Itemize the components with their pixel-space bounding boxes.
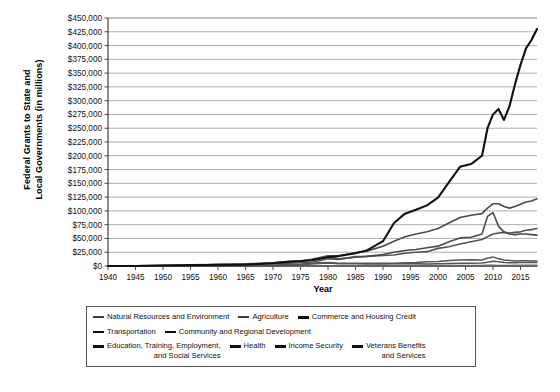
x-axis-tick-label: 2010: [484, 273, 503, 282]
y-axis-tick-label: $400,000: [68, 42, 103, 51]
legend-line-swatch-icon: [93, 345, 104, 348]
series-line: [108, 29, 537, 266]
legend-item-label: Transportation: [107, 327, 156, 337]
x-axis-tick-label: 1970: [264, 273, 283, 282]
y-axis-title: Federal Grants to State and Local Govern…: [22, 5, 45, 255]
legend-line-swatch-icon: [165, 331, 176, 334]
y-axis-tick-label: $350,000: [68, 69, 103, 78]
series-line: [108, 199, 537, 266]
legend-line-swatch-icon: [93, 316, 104, 318]
legend-item[interactable]: Education, Training, Employment,and Soci…: [93, 341, 221, 360]
y-axis-tick-label: $275,000: [68, 110, 103, 119]
legend-line-swatch-icon: [275, 345, 286, 348]
y-axis-tick-label: $200,000: [68, 152, 103, 161]
y-axis-tick-label: $50,000: [72, 234, 102, 243]
x-axis-tick-label: 1990: [374, 273, 393, 282]
y-axis-title-line2: Local Governments (in millions): [33, 5, 45, 255]
legend-row: Natural Resources and EnvironmentAgricul…: [93, 312, 469, 322]
y-axis-tick-label: $175,000: [68, 166, 103, 175]
legend-item-label: Education, Training, Employment,and Soci…: [107, 341, 221, 360]
x-axis-tick-label: 1955: [181, 273, 200, 282]
y-axis-tick-label: $100,000: [68, 207, 103, 216]
y-axis-tick-label: $125,000: [68, 193, 103, 202]
legend-item-label: Community and Regional Development: [179, 327, 311, 337]
legend-item-label: Natural Resources and Environment: [107, 312, 229, 322]
legend-line-swatch-icon: [93, 331, 104, 334]
y-axis-tick-label: $75,000: [72, 221, 102, 230]
legend-item-label-line2: and Social Services: [107, 351, 221, 361]
legend-item[interactable]: Agriculture: [238, 312, 288, 322]
y-axis-tick-label: $450,000: [68, 14, 103, 23]
legend-item[interactable]: Community and Regional Development: [165, 327, 311, 337]
y-axis-tick-label: $300,000: [68, 97, 103, 106]
legend-item-label: Health: [244, 341, 266, 351]
line-chart-svg: $0$25,000$50,000$75,000$100,000$125,000$…: [0, 0, 560, 300]
y-axis-tick-label: $150,000: [68, 179, 103, 188]
legend-row: TransportationCommunity and Regional Dev…: [93, 327, 469, 337]
x-axis-tick-label: 1985: [346, 273, 365, 282]
legend-row: Education, Training, Employment,and Soci…: [93, 341, 469, 360]
chart-figure: $0$25,000$50,000$75,000$100,000$125,000$…: [0, 0, 560, 392]
x-axis-tick-label: 1960: [209, 273, 228, 282]
legend-line-swatch-icon: [298, 316, 309, 319]
y-axis-tick-label: $225,000: [68, 138, 103, 147]
legend-item[interactable]: Health: [230, 341, 266, 351]
x-axis-tick-label: 2005: [456, 273, 475, 282]
y-axis-tick-label: $0: [93, 262, 103, 271]
legend-item-label: Income Security: [289, 341, 343, 351]
y-axis-title-line1: Federal Grants to State and: [22, 5, 34, 255]
x-axis-title: Year: [108, 284, 538, 294]
legend-item-label: Commerce and Housing Credit: [312, 312, 416, 322]
legend-item-label: Agriculture: [252, 312, 288, 322]
y-axis-tick-label: $425,000: [68, 28, 103, 37]
legend-item[interactable]: Natural Resources and Environment: [93, 312, 229, 322]
x-axis-tick-label: 1975: [291, 273, 310, 282]
legend-item-label-line2: and Services: [366, 351, 426, 361]
legend-item[interactable]: Veterans Benefitsand Services: [352, 341, 426, 360]
x-axis-tick-label: 2015: [511, 273, 530, 282]
y-axis-tick-label: $250,000: [68, 124, 103, 133]
x-axis-tick-label: 1980: [319, 273, 338, 282]
chart-legend: Natural Resources and EnvironmentAgricul…: [86, 306, 476, 367]
x-axis-tick-label: 1995: [401, 273, 420, 282]
legend-item-label: Veterans Benefitsand Services: [366, 341, 426, 360]
legend-item[interactable]: Income Security: [275, 341, 343, 351]
legend-line-swatch-icon: [352, 345, 363, 348]
x-axis-tick-label: 1965: [236, 273, 255, 282]
x-axis-tick-label: 1945: [126, 273, 145, 282]
x-axis-tick-label: 1940: [99, 273, 118, 282]
legend-line-swatch-icon: [238, 316, 249, 318]
legend-line-swatch-icon: [230, 345, 241, 348]
legend-item[interactable]: Transportation: [93, 327, 156, 337]
legend-item[interactable]: Commerce and Housing Credit: [298, 312, 416, 322]
y-axis-tick-label: $325,000: [68, 83, 103, 92]
chart-plot-area: $0$25,000$50,000$75,000$100,000$125,000$…: [0, 0, 560, 300]
y-axis-tick-label: $375,000: [68, 55, 103, 64]
x-axis-tick-label: 2000: [429, 273, 448, 282]
y-axis-tick-label: $25,000: [72, 248, 102, 257]
x-axis-tick-label: 1950: [154, 273, 173, 282]
